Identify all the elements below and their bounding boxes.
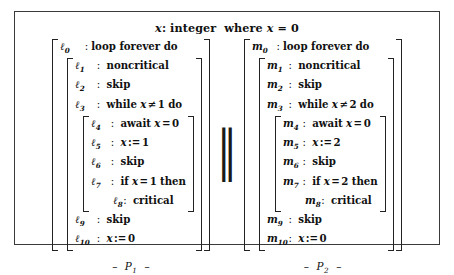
label-m4: m4 [283, 116, 302, 135]
expr-num-m7: 2 [341, 174, 348, 188]
expr-num-l10: 0 [128, 231, 135, 245]
statement-l2: ℓ2: skip [75, 77, 194, 96]
statement-m2: m2: skip [267, 77, 386, 96]
label-l10: ℓ10 [75, 231, 96, 250]
bracket-right-middle [196, 58, 202, 250]
statement-l5: ℓ5: x:=1 [91, 135, 186, 154]
declaration-type: integer [170, 21, 216, 35]
expr-op-m5: := [318, 135, 333, 149]
caption-dash-right-p1: – [144, 260, 150, 272]
label-l8: ℓ8 [113, 193, 122, 212]
keyword-while-l3: while [107, 97, 137, 111]
statement-l4: ℓ4: await x=0 [91, 116, 186, 135]
statement-l7: ℓ7: if x=1 then [91, 174, 186, 193]
statement-l6: ℓ6: skip [91, 154, 186, 173]
statement-m9: m9: skip [267, 212, 386, 231]
statement-m5: m5: x:=2 [283, 135, 378, 154]
text-m2: skip [298, 77, 322, 91]
text-m0: loop forever do [283, 39, 369, 53]
expr-num-l4: 0 [172, 116, 179, 130]
keyword-if-m7: if [312, 174, 320, 188]
process-name-p2: P2 [310, 260, 337, 272]
expr-op-m4: = [352, 116, 364, 130]
expr-num-l5: 1 [142, 135, 149, 149]
expr-num-m3: 2 [349, 97, 356, 111]
bracket-left-outer [244, 39, 250, 251]
bracket-right-inner [380, 116, 386, 212]
keyword-do-m3: do [360, 97, 374, 111]
declaration-init-variable: x [267, 21, 274, 35]
label-m9: m9 [267, 212, 288, 231]
label-m8: m8 [305, 193, 321, 212]
bracket-right-outer [204, 39, 210, 251]
text-l2: skip [107, 77, 131, 91]
label-l7: ℓ7 [91, 174, 110, 193]
p2-middle-bracket: m1: noncritical m2: skip m3: while x≠2 d… [252, 58, 394, 250]
p2-outer-bracket: m0:loop forever do m1: noncritical m2: s… [244, 39, 402, 251]
text-l0: loop forever do [91, 39, 177, 53]
declaration-init-value: 0 [291, 21, 299, 35]
label-l3: ℓ3 [75, 97, 96, 116]
label-m1: m1 [267, 58, 288, 77]
keyword-then-m7: then [352, 174, 378, 188]
label-l0: ℓ0 [60, 39, 84, 58]
keyword-if-l7: if [121, 174, 129, 188]
process-p1: ℓ0:loop forever do ℓ1: noncritical ℓ2: s… [52, 39, 210, 275]
label-m6: m6 [283, 154, 302, 173]
expr-num-l7: 1 [150, 174, 157, 188]
declaration-where: where [224, 21, 262, 35]
statement-m10: m10: x:=0 [267, 231, 386, 250]
statement-m1: m1: noncritical [267, 58, 386, 77]
label-l1: ℓ1 [75, 58, 96, 77]
statement-l8: ℓ8: critical [91, 193, 186, 212]
keyword-await-l4: await [121, 116, 152, 130]
text-l8: critical [133, 193, 174, 207]
keyword-then-l7: then [160, 174, 186, 188]
text-m9: skip [298, 212, 322, 226]
process-caption-p2: –P2– [304, 260, 342, 275]
expr-op-l5: := [127, 135, 142, 149]
bracket-right-outer [396, 39, 402, 251]
statement-m7: m7: if x=2 then [283, 174, 378, 193]
expr-op-l10: := [113, 231, 128, 245]
label-l6: ℓ6 [91, 154, 110, 173]
p1-outer-bracket: ℓ0:loop forever do ℓ1: noncritical ℓ2: s… [52, 39, 210, 251]
bracket-left-outer [52, 39, 58, 251]
expr-num-l3: 1 [158, 97, 165, 111]
bracket-left-middle [67, 58, 73, 250]
expr-num-m4: 0 [364, 116, 371, 130]
keyword-await-m4: await [312, 116, 343, 130]
caption-dash-left-p2: – [304, 260, 310, 272]
bracket-right-inner [188, 116, 194, 212]
label-m3: m3 [267, 97, 288, 116]
expr-num-m5: 2 [334, 135, 341, 149]
statement-m0: m0:loop forever do [252, 39, 394, 58]
statement-l3: ℓ3: while x≠1 do [75, 97, 194, 116]
text-l6: skip [121, 154, 145, 168]
p2-inner-bracket: m4: await x=0 m5: x:=2 m6: skip [267, 116, 386, 212]
text-m1: noncritical [298, 58, 360, 72]
declaration-equals: = [278, 21, 287, 35]
p1-middle-bracket: ℓ1: noncritical ℓ2: skip ℓ3: while x≠1 d… [60, 58, 202, 250]
process-name-p1: P1 [118, 260, 145, 272]
expr-op-l3: ≠ [146, 97, 158, 111]
expr-op-m10: := [304, 231, 319, 245]
statement-m8: m8: critical [283, 193, 378, 212]
label-m5: m5 [283, 135, 302, 154]
text-m6: skip [312, 154, 336, 168]
label-l5: ℓ5 [91, 135, 110, 154]
figure-frame: x: integer where x = 0 ℓ0:loop forever d… [14, 11, 440, 245]
bracket-left-inner [275, 116, 281, 212]
expr-op-l4: = [160, 116, 172, 130]
expr-op-m7: = [330, 174, 342, 188]
label-l9: ℓ9 [75, 212, 96, 231]
statement-m3: m3: while x≠2 do [267, 97, 386, 116]
label-m7: m7 [283, 174, 302, 193]
parallel-composition-operator: ‖ [217, 128, 237, 185]
statement-l9: ℓ9: skip [75, 212, 194, 231]
statement-m6: m6: skip [283, 154, 378, 173]
statement-l0: ℓ0:loop forever do [60, 39, 202, 58]
process-caption-p1: –P1– [112, 260, 150, 275]
text-m8: critical [331, 193, 372, 207]
declaration-variable: x [155, 21, 162, 35]
